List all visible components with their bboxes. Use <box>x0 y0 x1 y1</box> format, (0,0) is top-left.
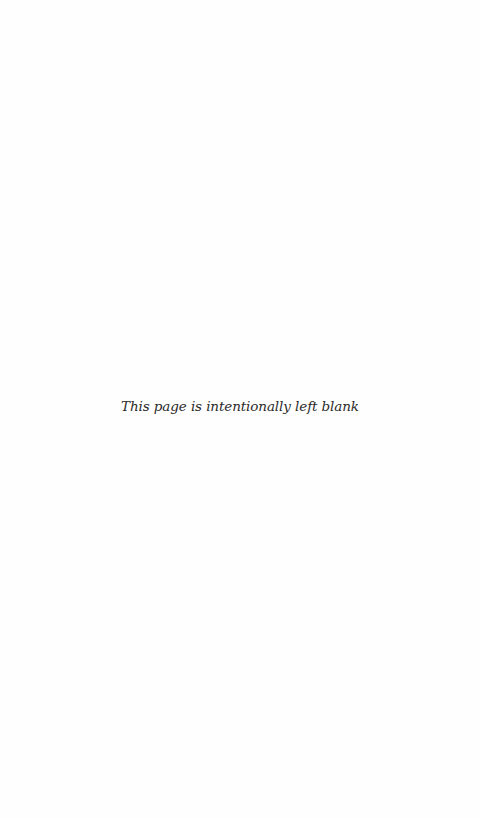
intentionally-blank-notice: This page is intentionally left blank <box>0 396 480 416</box>
blank-page: This page is intentionally left blank <box>0 0 480 818</box>
